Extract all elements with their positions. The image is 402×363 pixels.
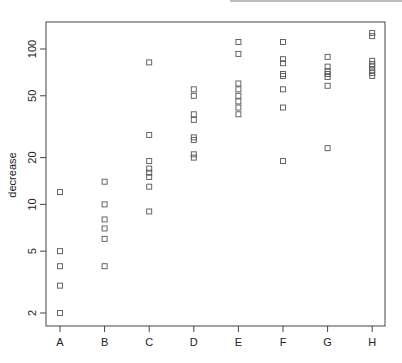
data-point xyxy=(147,60,152,65)
x-tick-label: A xyxy=(56,336,64,348)
data-point xyxy=(147,132,152,137)
data-point xyxy=(370,30,375,35)
x-axis: ABCDEFGH xyxy=(56,326,376,348)
data-point xyxy=(102,264,107,269)
data-points xyxy=(58,30,375,315)
data-point xyxy=(236,99,241,104)
data-point xyxy=(325,146,330,151)
data-point xyxy=(102,202,107,207)
data-point xyxy=(236,112,241,117)
x-tick-label: E xyxy=(235,336,242,348)
data-point xyxy=(281,87,286,92)
data-point xyxy=(236,51,241,56)
data-point xyxy=(236,87,241,92)
data-point xyxy=(58,311,63,316)
x-tick-label: G xyxy=(323,336,332,348)
y-tick-label: 20 xyxy=(26,151,38,163)
data-point xyxy=(370,34,375,39)
data-point xyxy=(236,39,241,44)
data-point xyxy=(281,105,286,110)
data-point xyxy=(147,159,152,164)
data-point xyxy=(102,217,107,222)
y-tick-label: 2 xyxy=(26,310,38,316)
data-point xyxy=(191,152,196,157)
data-point xyxy=(147,209,152,214)
data-point xyxy=(191,87,196,92)
x-tick-label: C xyxy=(145,336,153,348)
data-point xyxy=(58,283,63,288)
x-tick-label: B xyxy=(101,336,108,348)
data-point xyxy=(281,39,286,44)
x-tick-label: F xyxy=(280,336,287,348)
data-point xyxy=(191,93,196,98)
data-point xyxy=(191,112,196,117)
data-point xyxy=(147,184,152,189)
data-point xyxy=(325,54,330,59)
data-point xyxy=(281,74,286,79)
y-tick-label: 5 xyxy=(26,248,38,254)
x-tick-label: H xyxy=(368,336,376,348)
data-point xyxy=(281,159,286,164)
data-point xyxy=(325,83,330,88)
y-tick-label: 100 xyxy=(26,40,38,58)
data-point xyxy=(58,190,63,195)
data-point xyxy=(191,155,196,160)
data-point xyxy=(281,72,286,77)
data-point xyxy=(58,249,63,254)
y-axis: 25102050100 xyxy=(26,40,46,316)
data-point xyxy=(370,58,375,63)
data-point xyxy=(102,226,107,231)
data-point xyxy=(58,264,63,269)
data-point xyxy=(102,236,107,241)
data-point xyxy=(325,75,330,80)
scatter-chart: 25102050100 ABCDEFGH decrease xyxy=(0,0,402,363)
data-point xyxy=(102,179,107,184)
data-point xyxy=(191,117,196,122)
data-point xyxy=(236,81,241,86)
y-tick-label: 10 xyxy=(26,198,38,210)
data-point xyxy=(236,105,241,110)
x-tick-label: D xyxy=(190,336,198,348)
data-point xyxy=(370,74,375,79)
plot-frame xyxy=(46,22,385,326)
y-axis-title: decrease xyxy=(6,152,18,197)
y-tick-label: 50 xyxy=(26,90,38,102)
data-point xyxy=(236,93,241,98)
